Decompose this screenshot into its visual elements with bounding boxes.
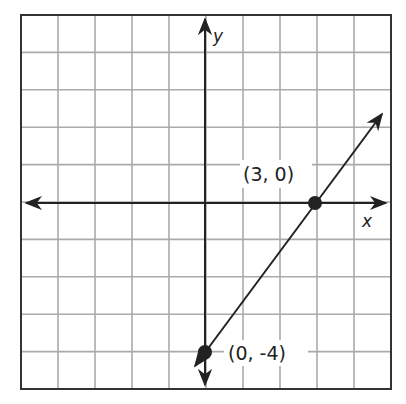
point-label-y-intercept: (0, -4) xyxy=(228,342,286,364)
point-label-x-intercept: (3, 0) xyxy=(243,163,294,185)
x-axis-label: x xyxy=(361,211,373,231)
point-x-intercept xyxy=(308,196,322,210)
point-y-intercept xyxy=(198,345,212,359)
coordinate-graph: y x (3, 0) (0, -4) xyxy=(0,0,406,404)
y-axis-label: y xyxy=(212,26,224,46)
